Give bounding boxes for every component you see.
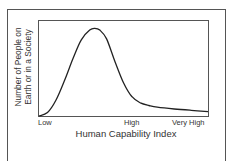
chart-svg	[38, 20, 209, 117]
x-axis-label: Human Capability Index	[66, 128, 186, 139]
plot-area	[38, 20, 209, 117]
distribution-curve	[39, 28, 208, 116]
plot-border	[39, 21, 209, 117]
y-axis-label: Number of People on Earth or in a Societ…	[14, 17, 33, 117]
y-axis-label-line-2: Earth or in a Society	[24, 17, 34, 117]
x-tick-very-high: Very High	[172, 118, 205, 127]
x-tick-high: High	[124, 118, 139, 127]
x-tick-low: Low	[38, 118, 52, 127]
